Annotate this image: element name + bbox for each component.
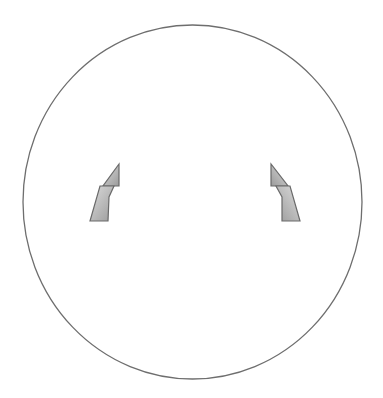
left-lower-parallelogram [90,186,114,221]
right-lower-parallelogram [276,186,300,221]
left-eye-shape [90,164,119,221]
drawing-canvas [0,0,383,398]
right-upper-triangle [271,164,288,186]
right-eye-shape [271,164,300,221]
outer-circle [23,25,362,379]
left-upper-triangle [103,164,119,186]
